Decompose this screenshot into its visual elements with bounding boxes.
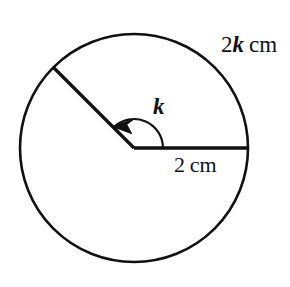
radius-length-label: 2cm — [174, 154, 217, 176]
geometry-figure: 2kcm 2cm k — [0, 0, 290, 287]
radius-length-unit: cm — [190, 152, 217, 177]
arc-length-number: 2 — [221, 32, 233, 57]
arc-length-variable: k — [233, 32, 245, 57]
radius-length-number: 2 — [174, 152, 185, 177]
arc-length-unit: cm — [249, 32, 277, 57]
arc-length-label: 2kcm — [221, 33, 277, 56]
angle-label: k — [153, 95, 165, 118]
